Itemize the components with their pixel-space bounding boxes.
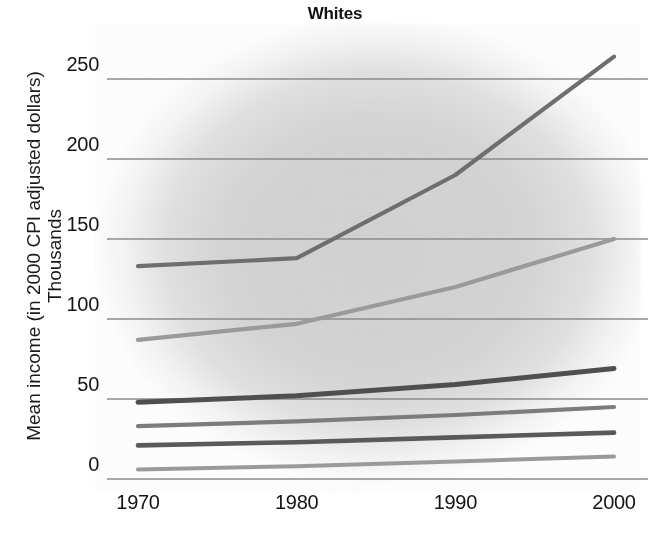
y-tick-label-150: 150 — [37, 213, 99, 236]
series-line-bottom-quantile — [138, 457, 614, 470]
series-line-third-quantile — [138, 369, 614, 403]
y-tick-label-50: 50 — [37, 373, 99, 396]
x-tick-label-1970: 1970 — [93, 491, 183, 514]
series-line-top-quantile — [138, 57, 614, 267]
series-line-second-quantile — [138, 239, 614, 340]
y-tick-label-250: 250 — [37, 53, 99, 76]
data-series — [138, 57, 614, 470]
chart-canvas — [0, 0, 670, 551]
y-tick-label-100: 100 — [37, 293, 99, 316]
series-line-fifth-quantile — [138, 433, 614, 446]
chart-figure: Whites Mean income (in 2000 CPI adjusted… — [0, 0, 670, 551]
series-line-fourth-quantile — [138, 407, 614, 426]
y-tick-label-200: 200 — [37, 133, 99, 156]
x-tick-label-2000: 2000 — [569, 491, 659, 514]
x-tick-label-1980: 1980 — [252, 491, 342, 514]
x-tick-label-1990: 1990 — [410, 491, 500, 514]
y-tick-label-0: 0 — [37, 453, 99, 476]
